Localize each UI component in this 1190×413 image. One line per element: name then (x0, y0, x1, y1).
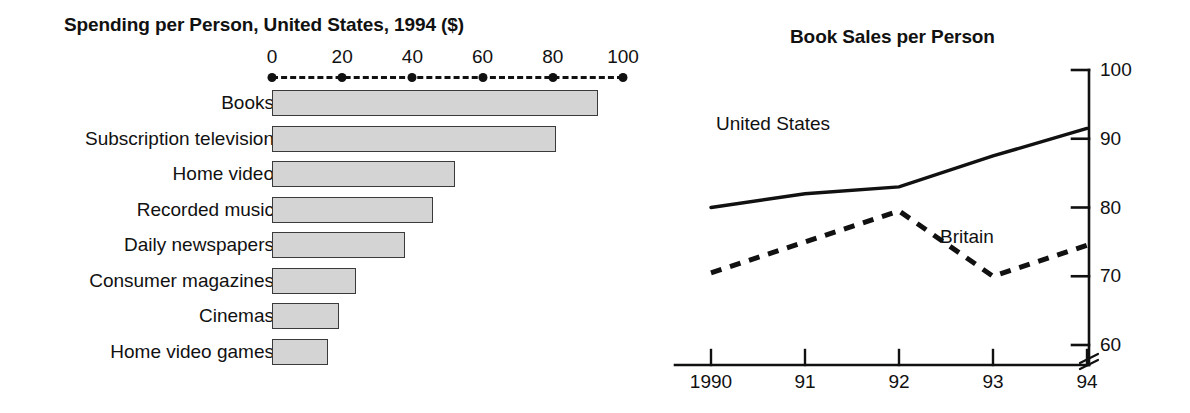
bar-rect[interactable] (272, 339, 328, 365)
bar-axis-tick-dot (548, 73, 557, 82)
bar-category-label: Daily newspapers (124, 234, 274, 256)
line-x-tick-label: 92 (888, 371, 909, 393)
bar-row[interactable]: Consumer magazines (0, 266, 640, 296)
line-y-tick-label: 100 (1100, 59, 1132, 81)
bar-category-label: Cinemas (199, 305, 274, 327)
line-chart-y-ticks (1072, 70, 1089, 345)
bar-axis-tick-dot (619, 73, 628, 82)
bar-category-label: Home video games (110, 341, 274, 363)
bar-axis-tick-dot (268, 73, 277, 82)
bar-rect[interactable] (272, 161, 455, 187)
bar-category-label: Recorded music (137, 199, 274, 221)
bar-row[interactable]: Cinemas (0, 301, 640, 331)
bar-x-tick-label: 60 (472, 46, 493, 68)
line-chart-x-ticks (711, 350, 1087, 365)
bar-x-tick-label: 100 (607, 46, 639, 68)
bar-x-tick-label: 20 (332, 46, 353, 68)
bar-rect[interactable] (272, 126, 556, 152)
bar-rect[interactable] (272, 90, 598, 116)
bar-x-tick-label: 80 (542, 46, 563, 68)
line-x-tick-label: 91 (794, 371, 815, 393)
bar-category-label: Consumer magazines (89, 270, 274, 292)
bar-rect[interactable] (272, 232, 405, 258)
bar-axis-tick-dot (478, 73, 487, 82)
bar-category-label: Subscription television (85, 128, 274, 150)
series-label-united-states: United States (716, 113, 830, 135)
line-chart: Book Sales per Person 607080901001990919… (640, 0, 1190, 413)
bar-row[interactable]: Home video (0, 159, 640, 189)
line-y-tick-label: 90 (1100, 128, 1121, 150)
figure-container: Spending per Person, United States, 1994… (0, 0, 1190, 413)
line-y-tick-label: 60 (1100, 334, 1121, 356)
bar-axis-tick-dot (338, 73, 347, 82)
bar-category-label: Books (221, 92, 274, 114)
line-x-tick-label: 93 (982, 371, 1003, 393)
bar-chart-x-axis: 020406080100 (0, 46, 640, 86)
line-x-tick-label: 1990 (690, 371, 732, 393)
line-y-tick-label: 70 (1100, 265, 1121, 287)
line-x-tick-label: 94 (1076, 371, 1097, 393)
bar-row[interactable]: Home video games (0, 337, 640, 367)
bar-row[interactable]: Recorded music (0, 195, 640, 225)
bar-chart-title: Spending per Person, United States, 1994… (64, 14, 464, 36)
bar-x-tick-label: 0 (267, 46, 278, 68)
line-series-2[interactable] (711, 211, 1087, 276)
bar-rect[interactable] (272, 268, 356, 294)
line-y-tick-label: 80 (1100, 197, 1121, 219)
bar-row[interactable]: Books (0, 88, 640, 118)
line-series-1[interactable] (711, 128, 1087, 207)
bar-rect[interactable] (272, 303, 339, 329)
bar-axis-tick-dot (408, 73, 417, 82)
bar-category-label: Home video (173, 163, 274, 185)
bar-x-tick-label: 40 (402, 46, 423, 68)
series-label-britain: Britain (940, 226, 994, 248)
bar-chart: Spending per Person, United States, 1994… (0, 0, 640, 413)
bar-rect[interactable] (272, 197, 433, 223)
bar-axis-dashed-line (272, 76, 623, 79)
bar-row[interactable]: Subscription television (0, 124, 640, 154)
bar-row[interactable]: Daily newspapers (0, 230, 640, 260)
